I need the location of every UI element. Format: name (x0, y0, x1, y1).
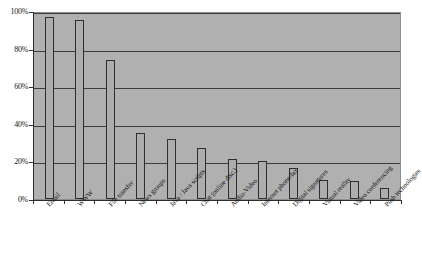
y-tick-label: 100% (0, 7, 28, 16)
y-tick-mark (29, 162, 33, 163)
y-tick-label: 20% (0, 157, 28, 166)
x-tick-mark (401, 200, 402, 204)
x-axis-category-labels: EmailWWWFile transferNews groupsJava / J… (33, 203, 401, 274)
y-tick-label: 0% (0, 195, 28, 204)
y-tick-mark (29, 125, 33, 126)
y-tick-mark (29, 50, 33, 51)
y-tick-mark (29, 12, 33, 13)
y-tick-label: 60% (0, 82, 28, 91)
y-tick-mark (29, 87, 33, 88)
y-tick-label: 40% (0, 120, 28, 129)
y-tick-label: 80% (0, 45, 28, 54)
